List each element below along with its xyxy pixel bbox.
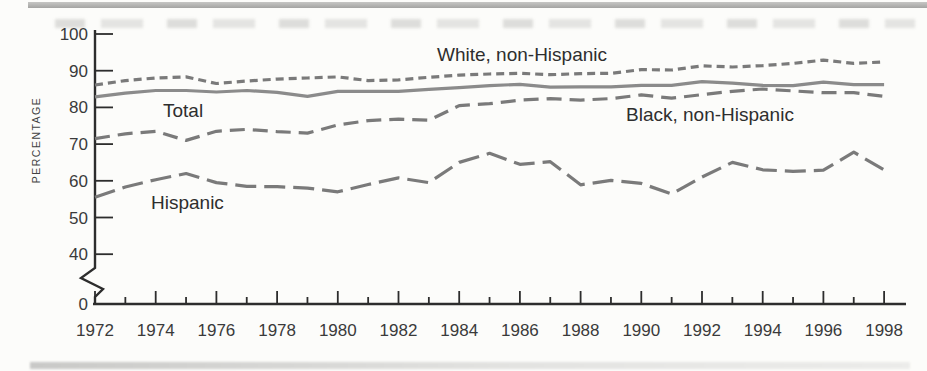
y-axis-ticks <box>96 34 113 254</box>
x-tick-label: 1980 <box>319 321 357 340</box>
series-label-white-non-hispanic: White, non-Hispanic <box>437 44 607 66</box>
x-tick-label: 1982 <box>380 321 418 340</box>
y-tick-label: 100 <box>60 25 88 44</box>
x-tick-label: 1996 <box>804 321 842 340</box>
series-line-hispanic <box>95 152 884 197</box>
scanned-chart-page: 1009080706050400 19721974197619781980198… <box>0 0 927 371</box>
y-tick-label: 50 <box>69 209 88 228</box>
x-tick-label: 1994 <box>744 321 782 340</box>
data-series-lines <box>95 60 884 197</box>
x-tick-label: 1974 <box>137 321 175 340</box>
y-origin-label: 0 <box>79 295 88 314</box>
y-axis-tick-labels: 1009080706050400 <box>60 25 88 314</box>
series-label-total: Total <box>163 100 203 122</box>
x-tick-label: 1972 <box>76 321 114 340</box>
x-tick-label: 1978 <box>258 321 296 340</box>
y-tick-label: 70 <box>69 135 88 154</box>
y-tick-label: 90 <box>69 62 88 81</box>
x-axis-ticks <box>95 291 884 304</box>
x-tick-label: 1998 <box>865 321 903 340</box>
y-tick-label: 60 <box>69 172 88 191</box>
y-tick-label: 80 <box>69 98 88 117</box>
x-tick-label: 1976 <box>197 321 235 340</box>
x-tick-label: 1988 <box>562 321 600 340</box>
y-axis-title: PERCENTAGE <box>30 97 42 184</box>
x-tick-label: 1992 <box>683 321 721 340</box>
series-label-black-non-hispanic: Black, non-Hispanic <box>626 104 794 126</box>
x-tick-label: 1990 <box>622 321 660 340</box>
x-axis-tick-labels: 1972197419761978198019821984198619881990… <box>76 321 903 340</box>
y-tick-label: 40 <box>69 245 88 264</box>
x-tick-label: 1986 <box>501 321 539 340</box>
x-tick-label: 1984 <box>440 321 478 340</box>
series-label-hispanic: Hispanic <box>151 192 224 214</box>
